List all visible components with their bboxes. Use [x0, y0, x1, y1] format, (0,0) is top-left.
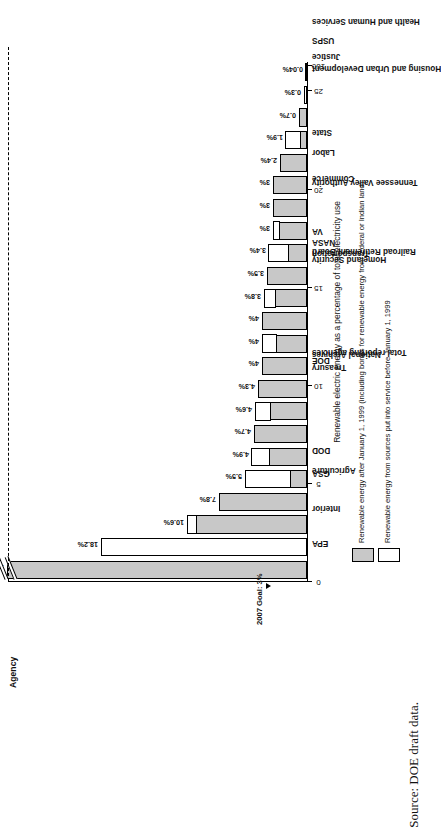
category-axis-title: Agency: [8, 657, 18, 688]
bar-segment-white: [255, 402, 271, 420]
bar-value-label: 1.9%: [266, 133, 282, 142]
bar-group: 153.5%EPA18.2%Interior10.6%Agriculture7.…: [8, 62, 307, 581]
category-label: USPS: [312, 35, 334, 44]
bar-value-label: 10.6%: [164, 518, 184, 527]
bar-value-label: 0.3%: [284, 88, 300, 97]
bar-value-label: 4.3%: [239, 382, 255, 391]
bar-value-label: 18.2%: [78, 540, 98, 549]
bar: [299, 109, 307, 127]
bar: [254, 425, 307, 443]
bar-segment-white: [187, 515, 197, 533]
bar-segment-white: [285, 131, 301, 149]
legend-swatch-white: [378, 548, 400, 562]
bar-value-label: 4%: [248, 337, 258, 346]
bar: [273, 176, 307, 194]
bar-segment-white: [245, 470, 291, 488]
bar: [255, 402, 307, 420]
bar: [258, 380, 307, 398]
goal-annotation-label: 2007 Goal: 3%: [255, 574, 264, 626]
bar-value-label: 2.4%: [260, 156, 276, 165]
bar: [305, 63, 307, 81]
legend-item: Renewable energy from sources put into s…: [378, 182, 400, 562]
legend-item: Renewable energy after January 1, 1999 (…: [352, 182, 374, 562]
bar: [264, 289, 307, 307]
legend-label: Renewable energy after January 1, 1999 (…: [352, 182, 372, 543]
axis-tick: [308, 581, 312, 582]
bar-value-label: 7.8%: [199, 495, 215, 504]
bar-segment-white: [262, 334, 278, 352]
bar: [286, 131, 308, 149]
bar-value-label: 3%: [260, 201, 270, 210]
bar-value-label: 3.5%: [248, 269, 264, 278]
bar-value-label: 4.6%: [236, 405, 252, 414]
bar-value-label: 3%: [260, 224, 270, 233]
bar-segment-white: [264, 289, 276, 307]
goal-reference-line: [8, 47, 9, 581]
source-caption: Source: DOE draft data.: [406, 702, 422, 828]
axis-tick-label: 20: [314, 185, 323, 194]
axis-tick-label: 25: [314, 87, 323, 96]
bar-segment-white: [251, 448, 269, 466]
category-label: Justice: [312, 52, 340, 61]
value-axis: 0510152025160: [308, 62, 348, 582]
plot-box: 153.5%EPA18.2%Interior10.6%Agriculture7.…: [8, 62, 308, 582]
axis-tick: [308, 90, 312, 91]
bar-value-label: 3.8%: [245, 292, 261, 301]
axis-tick: [308, 483, 312, 484]
bar-value-label: 0.04%: [282, 65, 302, 74]
bar: [267, 267, 307, 285]
bar-value-label: 0.7%: [280, 111, 296, 120]
axis-tick-label: 5: [316, 479, 320, 488]
bar-value-label: 3%: [260, 178, 270, 187]
value-axis-title: Renewable electric energy as a percentag…: [332, 62, 342, 582]
legend-swatch-gray: [352, 548, 374, 562]
legend: Renewable energy after January 1, 1999 (…: [352, 182, 404, 562]
bar: [245, 470, 307, 488]
bar: [252, 448, 307, 466]
bar-value-label: 4%: [248, 359, 258, 368]
bar: [304, 86, 307, 104]
bar: [262, 335, 307, 353]
bar-value-label: 5.5%: [225, 472, 241, 481]
axis-tick-label: 15: [314, 283, 323, 292]
bar: [273, 222, 307, 240]
category-label: Health and Human Services: [312, 18, 420, 27]
bar-value-label: 4.9%: [232, 450, 248, 459]
bar: [262, 312, 307, 330]
bar-value-label: 3.4%: [249, 246, 265, 255]
axis-tick-label: 160: [312, 62, 325, 71]
axis-tick: [308, 287, 312, 288]
bar: [187, 515, 307, 533]
axis-tick-label: 0: [316, 578, 320, 587]
axis-tick: [308, 385, 312, 386]
bar: [101, 538, 307, 556]
goal-arrow-icon: [266, 583, 271, 589]
axis-tick: [308, 189, 312, 190]
bar-value-label: 4%: [248, 314, 258, 323]
bar: [219, 493, 307, 511]
bar: [269, 244, 307, 262]
legend-label: Renewable energy from sources put into s…: [378, 300, 398, 543]
bar-value-label: 4.7%: [234, 427, 250, 436]
bar-segment-white: [273, 221, 280, 239]
bar-segment-white: [268, 244, 288, 262]
bar: [280, 154, 307, 172]
axis-tick-label: 10: [314, 381, 323, 390]
bar: [273, 199, 307, 217]
bar: [262, 357, 307, 375]
